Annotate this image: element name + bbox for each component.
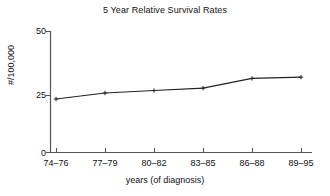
data-point-marker xyxy=(103,91,107,95)
y-axis xyxy=(46,31,51,153)
chart-container: 5 Year Relative Survival Rates #/100,000… xyxy=(0,0,330,196)
data-point-marker xyxy=(250,76,254,80)
data-point-marker xyxy=(152,88,156,92)
data-point-marker xyxy=(299,75,303,79)
data-point-marker xyxy=(54,97,58,101)
x-axis xyxy=(51,148,313,153)
series-line xyxy=(56,77,301,99)
x-axis-ticks xyxy=(57,148,302,153)
data-point-marker xyxy=(201,86,205,90)
plot-area xyxy=(0,0,330,196)
series-markers xyxy=(54,75,303,101)
